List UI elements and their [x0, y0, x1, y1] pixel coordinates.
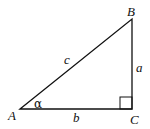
triangle-shape — [20, 19, 132, 109]
right-angle-marker — [120, 97, 132, 109]
triangle-diagram: A B C c a b α — [0, 0, 150, 129]
angle-label-alpha: α — [34, 97, 42, 111]
side-label-b: b — [73, 110, 80, 125]
side-label-a: a — [136, 60, 143, 75]
side-label-c: c — [64, 52, 70, 67]
vertex-label-b: B — [127, 4, 135, 19]
vertex-label-c: C — [130, 112, 139, 127]
vertex-label-a: A — [7, 108, 16, 123]
